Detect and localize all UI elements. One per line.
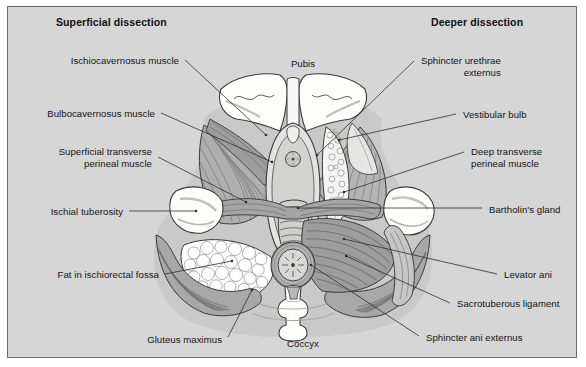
- leader-point-gluteus-maximus: [251, 289, 254, 292]
- leader-line-levator-ani: [344, 239, 497, 274]
- label-coccyx: Coccyx: [263, 338, 343, 350]
- leader-line-superficial-transverse-perineal-muscle: [158, 157, 246, 202]
- figure-page: Superficial dissection Deeper dissection…: [0, 0, 586, 367]
- label-ischial-tuberosity: Ischial tuberosity: [51, 206, 123, 218]
- leader-point-ischial-tuberosity: [195, 210, 198, 213]
- leader-line-sacrotuberous-ligament: [346, 256, 450, 303]
- leader-point-bulbocavernosus-muscle: [271, 161, 274, 164]
- leader-line-deep-transverse-perineal-muscle: [344, 152, 464, 192]
- label-bartholins-gland: Bartholin's gland: [489, 204, 560, 216]
- leader-line-sphincter-ani-externus: [311, 265, 419, 336]
- label-sphincter-ani-externus: Sphincter ani externus: [426, 332, 523, 344]
- header-deeper-dissection: Deeper dissection: [431, 16, 523, 28]
- leader-point-fat-in-ischiorectal-fossa: [231, 260, 234, 263]
- label-levator-ani: Levator ani: [504, 269, 552, 281]
- label-bulbocavernosus-muscle: Bulbocavernosus muscle: [47, 108, 155, 120]
- leader-point-sacrotuberous-ligament: [345, 255, 348, 258]
- leader-point-deep-transverse-perineal-muscle: [343, 191, 346, 194]
- label-deep-transverse-perineal-muscle: Deep transverse perineal muscle: [471, 146, 542, 169]
- label-sacrotuberous-ligament: Sacrotuberous ligament: [457, 298, 559, 310]
- label-vestibular-bulb: Vestibular bulb: [463, 109, 527, 121]
- leader-line-gluteus-maximus: [228, 290, 252, 337]
- leader-point-bartholins-gland: [297, 207, 300, 210]
- label-pubis: Pubis: [263, 58, 343, 70]
- leader-point-sphincter-ani-externus: [310, 264, 313, 267]
- label-ischiocavernosus-muscle: Ischiocavernosus muscle: [71, 55, 179, 67]
- figure-panel: Superficial dissection Deeper dissection…: [7, 6, 577, 358]
- leader-point-levator-ani: [343, 238, 346, 241]
- leader-point-sphincter-urethrae-externus: [316, 154, 319, 157]
- leader-line-vestibular-bulb: [339, 114, 456, 140]
- leader-line-sphincter-urethrae-externus: [317, 61, 414, 155]
- leader-line-ischiocavernosus-muscle: [185, 60, 266, 135]
- label-gluteus-maximus: Gluteus maximus: [147, 334, 222, 346]
- leader-point-vestibular-bulb: [338, 139, 341, 142]
- header-superficial-dissection: Superficial dissection: [56, 16, 167, 28]
- leader-point-superficial-transverse-perineal-muscle: [245, 201, 248, 204]
- label-sphincter-urethrae-externus: Sphincter urethrae externus: [421, 55, 501, 78]
- label-superficial-transverse-perineal-muscle: Superficial transverse perineal muscle: [59, 146, 152, 169]
- leader-point-ischiocavernosus-muscle: [265, 134, 268, 137]
- leader-line-bulbocavernosus-muscle: [161, 113, 272, 162]
- leader-line-fat-in-ischiorectal-fossa: [165, 261, 232, 274]
- label-fat-in-ischiorectal-fossa: Fat in ischiorectal fossa: [58, 269, 160, 281]
